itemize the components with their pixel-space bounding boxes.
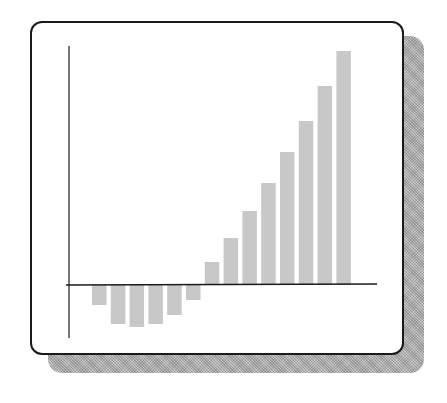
bar-6 bbox=[186, 285, 201, 300]
bar-8 bbox=[224, 238, 239, 285]
bar-2 bbox=[111, 285, 126, 324]
bar-1 bbox=[92, 285, 107, 305]
bar-14 bbox=[336, 51, 351, 285]
bar-7 bbox=[205, 262, 220, 285]
bar-9 bbox=[242, 211, 257, 285]
bar-10 bbox=[261, 183, 276, 285]
bar-series bbox=[92, 51, 351, 327]
x-axis-baseline bbox=[66, 284, 377, 285]
bar-chart bbox=[0, 0, 447, 403]
bar-11 bbox=[280, 152, 295, 285]
bar-13 bbox=[318, 86, 333, 285]
bar-5 bbox=[167, 285, 182, 315]
bar-3 bbox=[130, 285, 145, 327]
bar-12 bbox=[299, 121, 314, 285]
bar-4 bbox=[148, 285, 163, 324]
